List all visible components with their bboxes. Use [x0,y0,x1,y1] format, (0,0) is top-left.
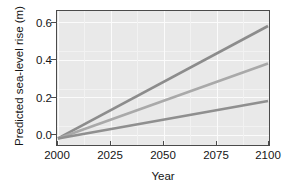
x-tick-mark [110,141,111,146]
x-tick-mark [57,141,58,146]
x-tick-label-2100: 2100 [240,150,290,162]
y-tick-label-0.0: 0.0 [4,130,52,142]
y-tick-label-0.2: 0.2 [4,93,52,105]
chart-figure: Predicted sea-level rise (m) 0.6 0.4 0.2… [0,0,290,192]
x-tick-label-2000: 2000 [29,150,85,162]
series-layer [57,11,269,145]
gridline-x-2100 [269,11,270,145]
series-line-low [58,101,268,138]
x-tick-mark [216,141,217,146]
series-line-high [58,26,268,138]
y-tick-label-0.4: 0.4 [4,55,52,67]
plot-panel [56,10,270,146]
x-tick-mark [163,141,164,146]
x-axis-title: Year [56,170,270,182]
x-tick-label-2025: 2025 [82,150,138,162]
x-tick-label-2075: 2075 [188,150,244,162]
y-tick-label-0.6: 0.6 [4,18,52,30]
x-tick-mark [268,141,269,146]
series-line-medium [58,63,268,138]
x-tick-label-2050: 2050 [135,150,191,162]
